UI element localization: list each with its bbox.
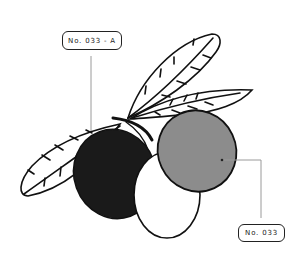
olive-branch-illustration: [0, 0, 303, 261]
callout-label-a: No. 033 - A: [62, 31, 122, 50]
leader-dot-b: [221, 159, 224, 162]
callout-label-b: No. 033: [238, 224, 285, 242]
olive-branch-diagram: No. 033 - A No. 033: [0, 0, 303, 261]
